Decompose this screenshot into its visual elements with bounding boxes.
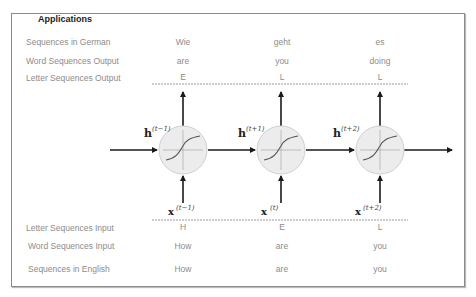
input-label-1-sup: (t−1): [176, 204, 195, 212]
input-label-3-sup: (t+2): [363, 204, 382, 212]
hidden-label-3-base: h: [333, 127, 341, 140]
hidden-label-2-base: h: [238, 127, 246, 140]
hidden-label-1-sup: (t−1): [152, 125, 171, 133]
rnn-node-3: [356, 126, 404, 174]
rnn-node-2: [257, 126, 305, 174]
rnn-node-1: [159, 126, 207, 174]
hidden-label-1-base: h: [144, 127, 152, 140]
input-label-2-base: x: [261, 206, 268, 217]
hidden-label-3-sup: (t+2): [341, 125, 360, 133]
input-label-3-base: x: [355, 206, 362, 217]
input-label-2-sup: (t): [270, 204, 279, 212]
rnn-diagram: h (t−1) h (t+1) h (t+2) x (t−1) x (t) x …: [0, 0, 476, 297]
input-label-1-base: x: [168, 206, 175, 217]
hidden-label-2-sup: (t+1): [246, 125, 265, 133]
